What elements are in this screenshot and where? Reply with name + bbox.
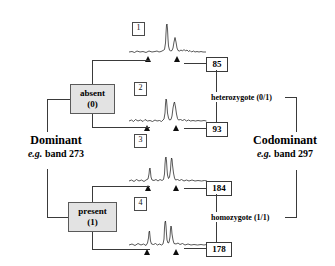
trace-2-curve bbox=[128, 93, 208, 125]
state-box-present[interactable]: present (1) bbox=[68, 202, 117, 232]
connector-present-to-spine bbox=[47, 217, 68, 218]
caption-codominant: Codominant e.g. band 297 bbox=[236, 133, 334, 160]
trace-index-1: 1 bbox=[132, 22, 145, 36]
trace-4-curve bbox=[128, 217, 208, 249]
caption-dominant-band: band 273 bbox=[42, 148, 84, 159]
value-box-184[interactable]: 184 bbox=[206, 181, 232, 196]
state-box-present-code: (1) bbox=[87, 217, 98, 227]
connector-trace2-to-absent-h bbox=[92, 127, 150, 128]
connector-absent-to-spine bbox=[47, 99, 70, 100]
trace-2-arrow-right bbox=[173, 125, 179, 131]
trace-2 bbox=[128, 93, 208, 125]
trace-index-4: 4 bbox=[134, 197, 147, 211]
connector-trace1-to-absent-v bbox=[92, 60, 93, 84]
connector-184-to-homozygote bbox=[216, 194, 217, 212]
value-box-85[interactable]: 85 bbox=[206, 57, 228, 72]
connector-trace2-to-absent-v bbox=[92, 114, 93, 127]
caption-dominant-eg: e.g. bbox=[28, 148, 42, 159]
label-homozygote: homozygote (1/1) bbox=[211, 213, 269, 222]
state-box-absent-code: (0) bbox=[87, 99, 98, 109]
caption-codominant-eg: e.g. bbox=[257, 148, 271, 159]
caption-codominant-sub: e.g. band 297 bbox=[236, 147, 334, 160]
trace-1-arrow-left bbox=[145, 56, 151, 62]
connector-homozygote-to-codom bbox=[285, 217, 297, 218]
caption-codominant-band: band 297 bbox=[271, 148, 313, 159]
caption-codominant-title: Codominant bbox=[236, 133, 334, 147]
connector-trace4-to-present-h bbox=[92, 249, 150, 250]
caption-dominant-sub: e.g. band 273 bbox=[6, 147, 106, 160]
value-box-93[interactable]: 93 bbox=[206, 122, 228, 137]
state-box-absent[interactable]: absent (0) bbox=[70, 84, 115, 114]
connector-trace4-to-178 bbox=[184, 248, 206, 249]
trace-index-2: 2 bbox=[134, 82, 147, 96]
trace-3-arrow-right bbox=[173, 185, 179, 191]
connector-heterozygote-to-93 bbox=[216, 102, 217, 122]
connector-trace3-to-present-h bbox=[92, 186, 150, 187]
trace-4-arrow-right bbox=[173, 249, 179, 255]
connector-85-to-heterozygote bbox=[216, 70, 217, 92]
caption-dominant-title: Dominant bbox=[6, 133, 106, 147]
trace-4 bbox=[128, 217, 208, 249]
value-box-178[interactable]: 178 bbox=[206, 242, 232, 257]
state-box-absent-label: absent bbox=[80, 88, 105, 98]
codominant-spine-lower bbox=[296, 170, 297, 217]
dominant-spine-lower bbox=[47, 169, 48, 217]
connector-trace4-to-present-v bbox=[92, 232, 93, 249]
connector-trace3-to-present-v bbox=[92, 186, 93, 202]
trace-index-3: 3 bbox=[134, 134, 147, 148]
connector-trace1-to-absent-h bbox=[92, 60, 150, 61]
label-heterozygote: heterozygote (0/1) bbox=[211, 93, 272, 102]
figure-canvas: 1 2 3 4 absent (0) present (1) 85 93 184 bbox=[0, 0, 335, 266]
dominant-spine-upper bbox=[47, 99, 48, 132]
connector-trace3-to-184 bbox=[184, 188, 206, 189]
codominant-spine-upper bbox=[296, 97, 297, 132]
connector-trace2-to-93 bbox=[184, 128, 206, 129]
connector-homozygote-to-178 bbox=[216, 222, 217, 242]
trace-2-arrow-left bbox=[144, 125, 150, 131]
connector-trace1-to-85 bbox=[184, 63, 206, 64]
trace-1-arrow-right bbox=[174, 56, 180, 62]
trace-3-curve bbox=[128, 152, 208, 185]
trace-3 bbox=[128, 152, 208, 185]
caption-dominant: Dominant e.g. band 273 bbox=[6, 133, 106, 160]
state-box-present-label: present bbox=[78, 206, 106, 216]
